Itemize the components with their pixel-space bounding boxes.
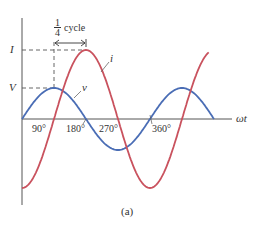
quarter-cycle-annotation: 1 4 cycle [54,18,85,37]
tick-label-90: 90° [32,124,46,134]
current-curve-label: i [110,53,113,64]
fraction-denominator: 4 [55,28,60,37]
current-peak-label: I [10,44,14,55]
phasor-waveform-diagram [0,0,260,226]
cycle-text: cycle [64,22,85,33]
voltage-label-leader [74,91,81,98]
fraction-numerator: 1 [55,18,60,27]
tick-label-360: 360° [152,124,171,134]
voltage-curve-label: v [82,82,87,93]
current-label-leader [101,62,109,72]
tick-label-270: 270° [99,124,118,134]
x-axis-label: ωt [236,113,247,124]
figure-caption: (a) [121,206,133,217]
voltage-peak-label: V [9,82,16,93]
tick-label-180: 180° [66,124,85,134]
